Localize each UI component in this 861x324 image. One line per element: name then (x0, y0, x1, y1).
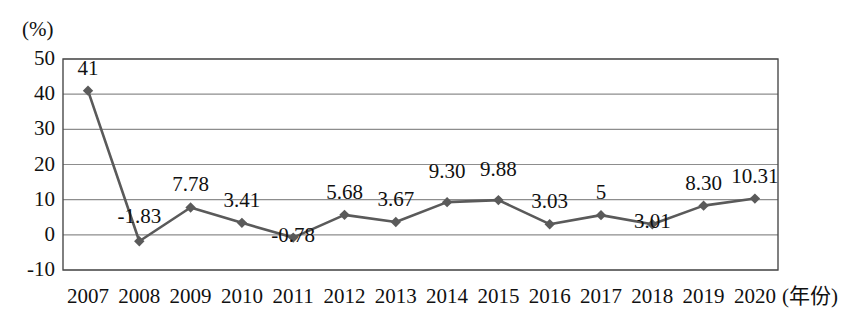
x-axis-tick-label: 2007 (67, 286, 109, 307)
data-point-marker (442, 197, 452, 207)
data-point-label: 9.30 (429, 161, 466, 182)
x-axis-tick-label: 2011 (273, 286, 314, 307)
data-point-marker (391, 217, 401, 227)
line-chart: (%) 50403020100-10 200720082009201020112… (0, 0, 861, 324)
data-point-label: 7.78 (172, 174, 209, 195)
data-point-marker (596, 210, 606, 220)
x-axis-tick-label: 2020 (734, 286, 776, 307)
data-point-label: 10.31 (731, 166, 778, 187)
data-point-marker (237, 218, 247, 228)
data-point-marker (750, 193, 760, 203)
y-axis-tick-label: 20 (9, 154, 55, 175)
x-axis-tick-label: 2008 (118, 286, 160, 307)
x-axis-tick-label: 2009 (170, 286, 212, 307)
x-axis-tick-label: 2018 (631, 286, 673, 307)
data-point-label: 3.01 (634, 211, 671, 232)
data-point-label: 5.68 (326, 182, 363, 203)
gridlines (63, 59, 778, 270)
data-point-label: 9.88 (480, 159, 517, 180)
x-axis-tick-label: 2015 (477, 286, 519, 307)
data-point-label: 8.30 (685, 173, 722, 194)
data-point-label: 41 (78, 58, 99, 79)
x-axis-tick-label: 2017 (580, 286, 622, 307)
data-point-label: 3.67 (377, 189, 414, 210)
x-axis-tick-label: 2012 (324, 286, 366, 307)
data-point-marker (339, 210, 349, 220)
data-point-label: 5 (596, 182, 607, 203)
y-axis-tick-label: 0 (9, 224, 55, 245)
y-axis-tick-label: 50 (9, 48, 55, 69)
x-axis-title: (年份) (782, 286, 838, 307)
x-axis-tick-label: 2014 (426, 286, 468, 307)
data-point-marker (545, 219, 555, 229)
y-axis-tick-label: -10 (9, 259, 55, 280)
data-point-label: -1.83 (117, 206, 161, 227)
data-point-label: -0.78 (271, 225, 315, 246)
data-point-label: 3.41 (224, 190, 261, 211)
data-point-marker (493, 195, 503, 205)
x-axis-tick-label: 2010 (221, 286, 263, 307)
x-axis-tick-label: 2013 (375, 286, 417, 307)
x-axis-tick-label: 2019 (683, 286, 725, 307)
x-axis-tick-label: 2016 (529, 286, 571, 307)
data-point-marker (698, 200, 708, 210)
y-axis-tick-label: 10 (9, 189, 55, 210)
y-axis-tick-label: 40 (9, 83, 55, 104)
data-point-label: 3.03 (531, 191, 568, 212)
y-axis-tick-label: 30 (9, 118, 55, 139)
